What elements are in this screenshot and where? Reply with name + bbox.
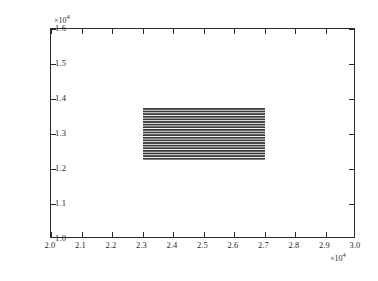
x-axis-tick-top: [234, 29, 235, 34]
y-axis-tick-label: 1.1: [44, 198, 66, 208]
raster-artifact-dot: [138, 133, 141, 136]
y-axis-tick-label: 1.5: [44, 58, 66, 68]
x-axis-tick-bottom: [326, 232, 327, 237]
x-axis-tick-label: 3.0: [350, 240, 361, 250]
x-axis-tick-top: [112, 29, 113, 34]
x-axis-tick-label: 2.6: [228, 240, 239, 250]
y-axis-tick-right: [349, 29, 354, 30]
y-axis-tick-label: 1.4: [44, 93, 66, 103]
x-axis-tick-bottom: [265, 232, 266, 237]
x-axis-tick-top: [143, 29, 144, 34]
x-axis-tick-label: 2.5: [197, 240, 208, 250]
x-axis-tick-label: 2.3: [136, 240, 147, 250]
x-axis-tick-bottom: [204, 232, 205, 237]
y-axis-tick-label: 1.6: [44, 23, 66, 33]
y-axis-tick-label: 1.2: [44, 163, 66, 173]
x-axis-tick-top: [295, 29, 296, 34]
x-axis-tick-top: [173, 29, 174, 34]
figure-canvas: ×104 ×104 2.02.12.22.32.42.52.62.72.82.9…: [0, 0, 378, 281]
x-axis-tick-label: 2.8: [289, 240, 300, 250]
y-axis-tick-label: 1.0: [44, 233, 66, 243]
x-axis-tick-label: 2.2: [106, 240, 117, 250]
x-axis-exponent-label: ×104: [330, 254, 346, 263]
x-axis-tick-bottom: [112, 232, 113, 237]
x-axis-tick-bottom: [143, 232, 144, 237]
y-axis-tick-right: [349, 64, 354, 65]
x-axis-tick-bottom: [82, 232, 83, 237]
hatched-region-patch: [143, 108, 265, 161]
x-axis-tick-top: [326, 29, 327, 34]
x-axis-tick-bottom: [295, 232, 296, 237]
x-axis-tick-label: 2.7: [258, 240, 269, 250]
y-axis-exponent-power: 4: [67, 13, 70, 20]
x-axis-tick-top: [204, 29, 205, 34]
y-axis-tick-label: 1.3: [44, 128, 66, 138]
y-axis-tick-right: [349, 134, 354, 135]
y-axis-tick-right: [349, 169, 354, 170]
x-axis-tick-label: 2.9: [319, 240, 330, 250]
x-axis-tick-top: [82, 29, 83, 34]
x-axis-tick-top: [265, 29, 266, 34]
plot-area: [51, 29, 354, 237]
axes-box: [50, 28, 355, 238]
y-axis-tick-right: [349, 204, 354, 205]
x-axis-tick-label: 2.1: [75, 240, 86, 250]
x-axis-tick-bottom: [234, 232, 235, 237]
x-axis-tick-bottom: [173, 232, 174, 237]
x-axis-exponent-base: ×10: [330, 254, 343, 263]
x-axis-tick-label: 2.4: [167, 240, 178, 250]
x-axis-exponent-power: 4: [343, 251, 346, 258]
y-axis-tick-right: [349, 99, 354, 100]
